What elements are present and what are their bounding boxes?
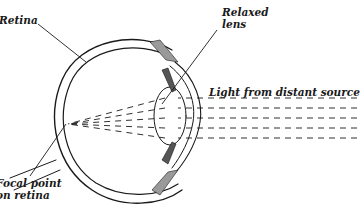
light-rays — [68, 98, 357, 138]
relaxed-lens-label-line1: Relaxed — [222, 6, 268, 18]
relaxed-lens-label-line2: lens — [222, 18, 268, 30]
focal-point-label-line1: Focal point — [0, 177, 62, 189]
retina-layer — [63, 48, 178, 194]
cornea-outer — [175, 62, 201, 172]
focal-point-label: Focal point on retina — [0, 177, 62, 201]
focal-point-label-line2: on retina — [0, 189, 62, 201]
cornea-inner — [170, 66, 194, 168]
light-source-label: Light from distant source — [209, 86, 360, 98]
relaxed-lens-label: Relaxed lens — [222, 6, 268, 30]
retina-label: Retina — [0, 14, 38, 26]
optic-nerve-upper — [10, 160, 56, 178]
lens-shape — [154, 87, 186, 145]
